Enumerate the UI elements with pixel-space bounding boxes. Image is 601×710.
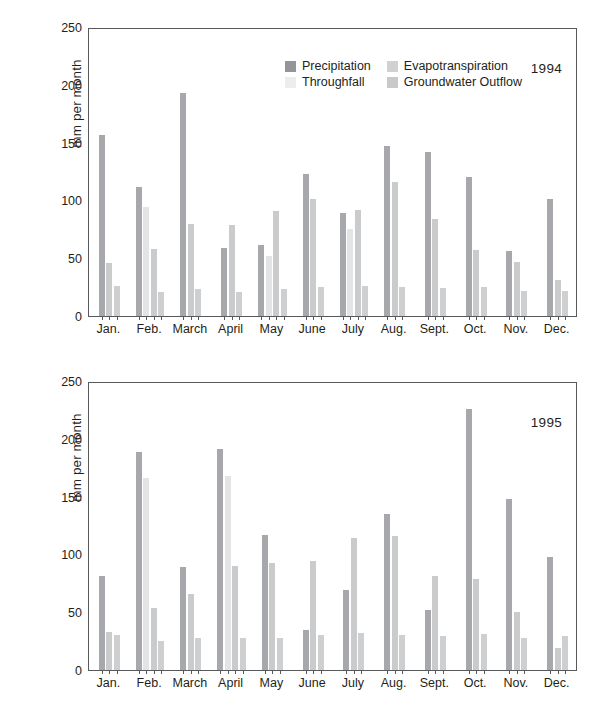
year-annotation: 1995 — [531, 415, 562, 430]
bar-evapotranspiration — [229, 225, 235, 316]
bar-precipitation — [258, 245, 264, 316]
x-axis-tick-mark — [435, 316, 436, 320]
x-axis-tick-mark — [321, 670, 322, 674]
x-axis-tick-mark — [321, 316, 322, 320]
y-axis-tick-label: 50 — [68, 253, 82, 265]
bar-evapotranspiration — [555, 648, 561, 670]
x-axis-tick-mark — [109, 670, 110, 674]
x-axis-tick-label: July — [342, 322, 364, 336]
x-axis-tick-mark — [395, 670, 396, 674]
x-axis-tick-mark — [558, 316, 559, 320]
bar-group — [221, 29, 242, 316]
x-axis-tick-label: Jan. — [97, 676, 121, 690]
y-axis-tick-label: 150 — [61, 138, 82, 150]
x-axis-tick-mark — [117, 670, 118, 674]
x-axis-tick-mark — [476, 316, 477, 320]
x-axis-tick-label: Aug. — [381, 322, 407, 336]
x-axis-tick-mark — [235, 670, 236, 674]
bar-groundwater-outflow — [562, 636, 568, 670]
x-axis-tick-mark — [354, 670, 355, 674]
y-axis-tick-label: 100 — [61, 195, 82, 207]
legend-swatch-precipitation-icon — [285, 61, 296, 72]
legend-item-groundwater-outflow: Groundwater Outflow — [387, 75, 522, 89]
bar-evapotranspiration — [310, 199, 316, 316]
y-axis-tick-label: 0 — [75, 665, 82, 677]
x-axis-tick-mark — [428, 670, 429, 674]
x-axis-tick-mark — [191, 670, 192, 674]
x-axis-tick-mark — [243, 670, 244, 674]
bar-groundwater-outflow — [399, 287, 405, 316]
x-axis-tick-mark — [239, 316, 240, 320]
x-axis-tick-mark — [361, 670, 362, 674]
x-axis-tick-mark — [306, 316, 307, 320]
x-axis-tick-mark — [161, 670, 162, 674]
x-axis-tick-mark — [224, 316, 225, 320]
x-axis-tick-mark — [550, 316, 551, 320]
bar-groundwater-outflow — [399, 635, 405, 670]
bar-evapotranspiration — [432, 219, 438, 316]
bar-groundwater-outflow — [281, 289, 287, 316]
bar-precipitation — [136, 187, 142, 316]
bar-groundwater-outflow — [440, 636, 446, 670]
bar-precipitation — [303, 630, 309, 670]
bar-group — [136, 29, 165, 316]
x-axis-tick-label: May — [260, 676, 284, 690]
x-axis-tick-mark — [517, 670, 518, 674]
bar-evapotranspiration — [106, 632, 112, 670]
x-axis-tick-mark — [102, 670, 103, 674]
legend: Precipitation Evapotranspiration Through… — [285, 59, 522, 89]
x-axis-tick-mark — [313, 670, 314, 674]
x-axis-tick-label: March — [173, 676, 208, 690]
x-axis-tick-label: April — [218, 676, 243, 690]
x-axis-tick-mark — [402, 316, 403, 320]
legend-item-precipitation: Precipitation — [285, 59, 371, 73]
bar-evapotranspiration — [392, 182, 398, 316]
x-axis-tick-label: June — [299, 322, 326, 336]
bar-precipitation — [99, 135, 105, 316]
x-axis-tick-mark — [154, 316, 155, 320]
bar-throughfall — [225, 476, 231, 670]
bar-evapotranspiration — [188, 224, 194, 316]
x-axis-tick-label: Dec. — [544, 322, 570, 336]
y-axis-tick-labels: 250200150100500 — [38, 4, 82, 324]
x-axis-tick-mark — [139, 670, 140, 674]
x-axis-tick-label: Nov. — [503, 676, 528, 690]
bar-group — [99, 383, 120, 670]
bar-group — [425, 383, 446, 670]
bar-groundwater-outflow — [195, 289, 201, 316]
x-axis-tick-label: Feb. — [137, 676, 162, 690]
bar-precipitation — [384, 514, 390, 670]
bar-precipitation — [425, 152, 431, 316]
bar-groundwater-outflow — [481, 634, 487, 670]
x-axis-tick-mark — [443, 670, 444, 674]
y-axis-tick-label: 250 — [61, 22, 82, 34]
bar-groundwater-outflow — [240, 638, 246, 670]
bar-group — [180, 29, 201, 316]
x-axis-tick-labels-1994: Jan.Feb.MarchAprilMayJuneJulyAug.Sept.Oc… — [88, 322, 577, 344]
x-axis-tick-label: Aug. — [381, 676, 407, 690]
bar-groundwater-outflow — [114, 635, 120, 670]
x-axis-tick-mark — [306, 670, 307, 674]
bar-group — [384, 383, 405, 670]
bar-precipitation — [506, 499, 512, 670]
chart-panel-1994: mm per month 250200150100500 1994 Precip… — [0, 4, 601, 352]
x-axis-tick-mark — [280, 670, 281, 674]
x-axis-tick-mark — [154, 670, 155, 674]
x-axis-tick-mark — [469, 670, 470, 674]
x-axis-tick-mark — [558, 670, 559, 674]
chart-panel-1995: mm per month 250200150100500 1995 Jan.Fe… — [0, 358, 601, 706]
legend-item-evapotranspiration: Evapotranspiration — [387, 59, 522, 73]
x-axis-tick-mark — [220, 670, 221, 674]
x-axis-tick-mark — [365, 316, 366, 320]
bar-precipitation — [303, 174, 309, 316]
x-axis-tick-mark — [232, 316, 233, 320]
bar-throughfall — [266, 256, 272, 316]
bar-throughfall — [347, 229, 353, 316]
x-axis-tick-mark — [509, 670, 510, 674]
x-axis-tick-label: July — [342, 676, 364, 690]
bar-precipitation — [384, 146, 390, 316]
bar-groundwater-outflow — [277, 638, 283, 670]
bar-precipitation — [136, 452, 142, 670]
x-axis-tick-mark — [228, 670, 229, 674]
y-axis-tick-label: 50 — [68, 607, 82, 619]
